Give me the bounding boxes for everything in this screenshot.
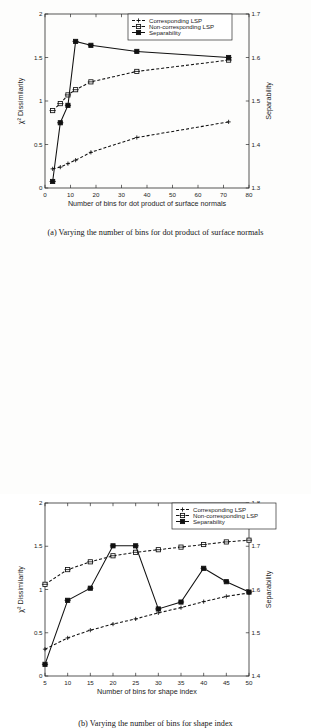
y-tick-label: 1.5	[34, 542, 43, 549]
figure-a: 0102030405060708000.511.521.31.41.51.61.…	[0, 0, 311, 245]
data-point-marker	[202, 600, 206, 604]
x-tick-label: 10	[67, 191, 74, 198]
y2-axis-title: Separability	[264, 570, 273, 608]
y-tick-label: 0	[39, 672, 43, 679]
series-line	[53, 60, 229, 110]
chart-a-plot: 0102030405060708000.511.521.31.41.51.61.…	[0, 0, 311, 218]
x-tick-label: 30	[155, 679, 162, 686]
x-axis-title: Number of bins for shape index	[97, 687, 197, 696]
x-tick-label: 30	[118, 191, 125, 198]
y-tick-label: 0.5	[34, 629, 43, 636]
series-1	[51, 120, 231, 171]
y-tick-label: 0.5	[34, 141, 43, 148]
y2-tick-label: 1.4	[252, 141, 261, 148]
x-tick-label: 50	[169, 191, 176, 198]
data-point-marker	[135, 135, 139, 139]
data-point-marker	[179, 606, 183, 610]
y-tick-label: 2	[39, 499, 43, 506]
series-line	[53, 122, 229, 169]
chart-legend: Corresponding LSPNon-corresponding LSPSe…	[172, 503, 276, 529]
x-tick-label: 35	[178, 679, 185, 686]
series-line	[45, 593, 249, 649]
x-tick-label: 40	[144, 191, 151, 198]
y2-axis-title: Separability	[264, 82, 273, 120]
x-axis-title: Number of bins for dot product of surfac…	[68, 199, 227, 208]
data-point-marker	[74, 158, 78, 162]
y2-tick-label: 1.5	[252, 629, 261, 636]
y-tick-label: 0	[39, 184, 43, 191]
series-2	[50, 58, 232, 113]
figure-b: 510152025303540455000.511.521.41.51.61.7…	[0, 245, 311, 494]
y-tick-label: 1	[39, 586, 43, 593]
x-tick-label: 40	[200, 679, 207, 686]
series-2	[42, 538, 252, 586]
x-tick-label: 0	[43, 191, 47, 198]
x-tick-label: 45	[223, 679, 230, 686]
y-axis-title: χ² Dissimilarity	[16, 77, 25, 124]
legend-label: Separability	[193, 518, 226, 525]
series-line	[53, 41, 229, 181]
data-point-marker	[224, 594, 228, 598]
y-tick-label: 2	[39, 10, 43, 17]
series-1	[43, 591, 251, 651]
y2-tick-label: 1.7	[252, 542, 261, 549]
series-3	[50, 39, 232, 183]
series-line	[45, 546, 249, 665]
y2-tick-label: 1.3	[252, 184, 261, 191]
x-tick-label: 10	[64, 679, 71, 686]
x-tick-label: 15	[87, 679, 94, 686]
data-point-marker	[58, 165, 62, 169]
y2-tick-label: 1.6	[252, 54, 261, 61]
x-tick-label: 5	[43, 679, 47, 686]
y2-tick-label: 1.4	[252, 672, 261, 679]
y2-tick-label: 1.7	[252, 10, 261, 17]
data-point-marker	[89, 150, 93, 154]
data-point-marker	[134, 617, 138, 621]
x-tick-label: 50	[246, 679, 253, 686]
chart-b-plot: 510152025303540455000.511.521.41.51.61.7…	[0, 490, 311, 712]
y-axis-title: χ² Dissimilarity	[16, 566, 25, 613]
x-tick-label: 20	[93, 191, 100, 198]
figure-b-caption: (b) Varying the number of bins for shape…	[0, 719, 311, 728]
series-3	[42, 544, 252, 667]
x-tick-label: 60	[195, 191, 202, 198]
x-tick-label: 70	[220, 191, 227, 198]
data-point-marker	[66, 636, 70, 640]
data-point-marker	[227, 120, 231, 124]
data-point-marker	[66, 162, 70, 166]
x-tick-label: 25	[132, 679, 139, 686]
y-tick-label: 1	[39, 97, 43, 104]
y-tick-label: 1.5	[34, 54, 43, 61]
figure-a-caption: (a) Varying the number of bins for dot p…	[0, 228, 311, 237]
legend-label: Separability	[149, 29, 182, 36]
y2-tick-label: 1.6	[252, 586, 261, 593]
x-tick-label: 20	[110, 679, 117, 686]
chart-legend: Corresponding LSPNon-corresponding LSPSe…	[128, 14, 232, 40]
data-point-marker	[43, 647, 47, 651]
data-point-marker	[111, 622, 115, 626]
data-point-marker	[88, 628, 92, 632]
y2-tick-label: 1.5	[252, 97, 261, 104]
x-tick-label: 80	[246, 191, 253, 198]
